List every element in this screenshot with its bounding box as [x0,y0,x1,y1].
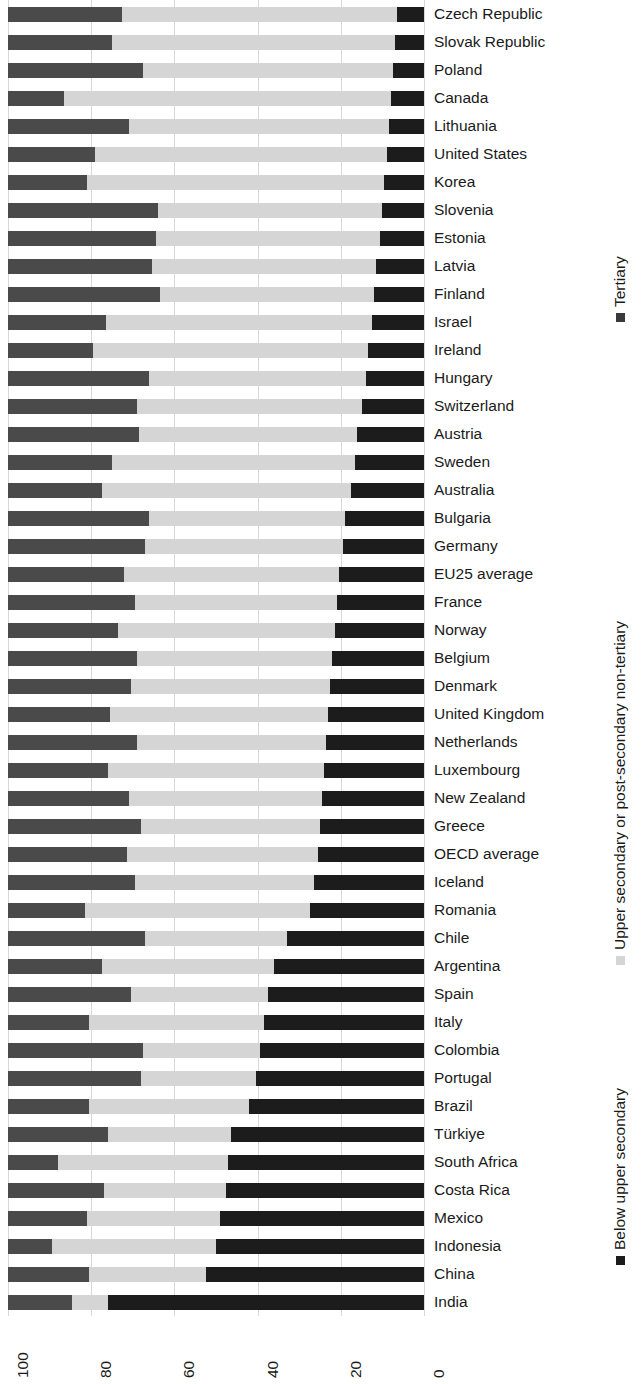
category-label: Romania [434,896,496,925]
legend-swatch-below [616,1256,625,1265]
bar-row[interactable] [0,28,432,57]
bar-row[interactable] [0,616,432,645]
legend-item-below[interactable]: Below upper secondary [611,1088,629,1265]
bar-row[interactable] [0,588,432,617]
bar-segment-below [8,1043,143,1058]
bar-row[interactable] [0,1120,432,1149]
bar-row[interactable] [0,644,432,673]
stacked-bar [8,1099,424,1114]
bar-row[interactable] [0,0,432,29]
bar-row[interactable] [0,1232,432,1261]
legend-swatch-tert [616,313,625,322]
bar-segment-upper [118,623,334,638]
bar-row[interactable] [0,84,432,113]
bar-row[interactable] [0,364,432,393]
bar-segment-tert [362,399,424,414]
bar-row[interactable] [0,924,432,953]
bar-row[interactable] [0,308,432,337]
bar-segment-below [8,343,93,358]
stacked-bar [8,399,424,414]
bar-segment-tert [372,315,424,330]
bar-segment-upper [149,371,365,386]
bar-row[interactable] [0,224,432,253]
bar-row[interactable] [0,784,432,813]
legend-item-upper[interactable]: Upper secondary or post-secondary non-te… [611,621,629,965]
legend-label: Upper secondary or post-secondary non-te… [611,621,629,950]
stacked-bar [8,959,424,974]
bar-segment-tert [391,91,424,106]
category-label: Germany [434,532,498,561]
bar-row[interactable] [0,700,432,729]
stacked-bar [8,259,424,274]
bar-row[interactable] [0,420,432,449]
stacked-bar [8,315,424,330]
bar-row[interactable] [0,1260,432,1289]
bar-row[interactable] [0,1008,432,1037]
category-label: Colombia [434,1036,499,1065]
bar-row[interactable] [0,280,432,309]
stacked-bar [8,511,424,526]
bar-row[interactable] [0,140,432,169]
bar-segment-tert [228,1155,424,1170]
bar-row[interactable] [0,560,432,589]
bar-segment-tert [387,147,424,162]
bar-row[interactable] [0,728,432,757]
bar-segment-upper [152,259,377,274]
category-label: EU25 average [434,560,533,589]
category-label: Argentina [434,952,500,981]
bar-row[interactable] [0,392,432,421]
bar-row[interactable] [0,756,432,785]
bar-row[interactable] [0,1204,432,1233]
bar-row[interactable] [0,1148,432,1177]
bar-row[interactable] [0,840,432,869]
category-label: Ireland [434,336,481,365]
bar-segment-tert [287,931,424,946]
bar-segment-below [8,63,143,78]
bar-row[interactable] [0,336,432,365]
bar-row[interactable] [0,196,432,225]
stacked-bar [8,763,424,778]
bar-segment-tert [320,819,424,834]
bar-segment-below [8,987,131,1002]
bar-segment-below [8,1155,58,1170]
bar-row[interactable] [0,448,432,477]
bar-row[interactable] [0,504,432,533]
category-label: Hungary [434,364,493,393]
bar-row[interactable] [0,812,432,841]
stacked-bar [8,651,424,666]
bar-segment-upper [131,679,331,694]
bar-row[interactable] [0,952,432,981]
bar-row[interactable] [0,1064,432,1093]
bar-segment-below [8,791,129,806]
stacked-bar [8,1155,424,1170]
bar-row[interactable] [0,672,432,701]
legend-item-tert[interactable]: Tertiary [611,256,629,322]
bar-segment-upper [72,1295,107,1310]
bar-segment-tert [322,791,424,806]
bar-row[interactable] [0,980,432,1009]
bar-segment-tert [343,539,424,554]
bar-row[interactable] [0,1288,432,1317]
bar-segment-upper [143,63,393,78]
bar-row[interactable] [0,1092,432,1121]
stacked-bar [8,567,424,582]
bar-row[interactable] [0,1176,432,1205]
bar-row[interactable] [0,112,432,141]
bar-segment-below [8,959,102,974]
category-label: China [434,1260,475,1289]
category-label: France [434,588,482,617]
bar-segment-tert [314,875,424,890]
bar-row[interactable] [0,1036,432,1065]
bar-row[interactable] [0,868,432,897]
bar-row[interactable] [0,896,432,925]
bar-segment-below [8,1295,72,1310]
bar-row[interactable] [0,168,432,197]
bar-row[interactable] [0,476,432,505]
bar-segment-tert [326,735,424,750]
bar-segment-tert [397,7,424,22]
x-tick-label: 40 [264,1361,282,1378]
bar-row[interactable] [0,252,432,281]
bar-row[interactable] [0,56,432,85]
bar-row[interactable] [0,532,432,561]
bar-segment-tert [220,1211,424,1226]
